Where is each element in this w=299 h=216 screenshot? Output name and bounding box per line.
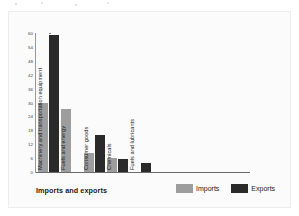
legend-item-exports: Exports	[231, 184, 275, 193]
y-tick-label: 24	[19, 114, 33, 119]
legend-label-exports: Exports	[251, 185, 275, 192]
x-category-label: Machinery and transportation equipment	[37, 68, 43, 170]
x-category-label: Chemicals	[106, 143, 112, 170]
bar-exports-3[interactable]	[118, 159, 128, 172]
y-axis-ticks: 60544842363024181260	[16, 0, 33, 216]
legend-item-imports: Imports	[176, 184, 219, 193]
x-category-label: Consumer goods	[83, 127, 89, 170]
x-category-label: Fuels and energy	[60, 126, 66, 170]
x-category-label: Fuels and lubricants	[129, 119, 135, 170]
y-tick-label: 42	[19, 72, 33, 77]
bar-exports-2[interactable]	[95, 135, 105, 172]
y-tick-label: 18	[19, 128, 33, 133]
x-axis-title: Imports and exports	[36, 186, 107, 195]
y-tick-label: 36	[19, 86, 33, 91]
y-tick-label: 12	[19, 142, 33, 147]
x-axis-line	[36, 172, 250, 173]
y-tick-label: 60	[19, 31, 33, 36]
y-tick-label: 30	[19, 100, 33, 105]
y-tick-label: 0	[19, 170, 33, 175]
chart-legend: Imports Exports	[176, 184, 275, 193]
bar-exports-4[interactable]	[141, 163, 151, 172]
y-tick-label: 54	[19, 44, 33, 49]
bar-exports-0[interactable]	[49, 35, 59, 172]
plot-area	[36, 33, 250, 172]
legend-swatch-imports	[176, 184, 193, 193]
chart-figure: Percentage of total 60544842363024181260…	[0, 0, 299, 216]
legend-label-imports: Imports	[196, 185, 219, 192]
legend-swatch-exports	[231, 184, 248, 193]
y-tick-label: 48	[19, 58, 33, 63]
y-tick-label: 6	[19, 156, 33, 161]
